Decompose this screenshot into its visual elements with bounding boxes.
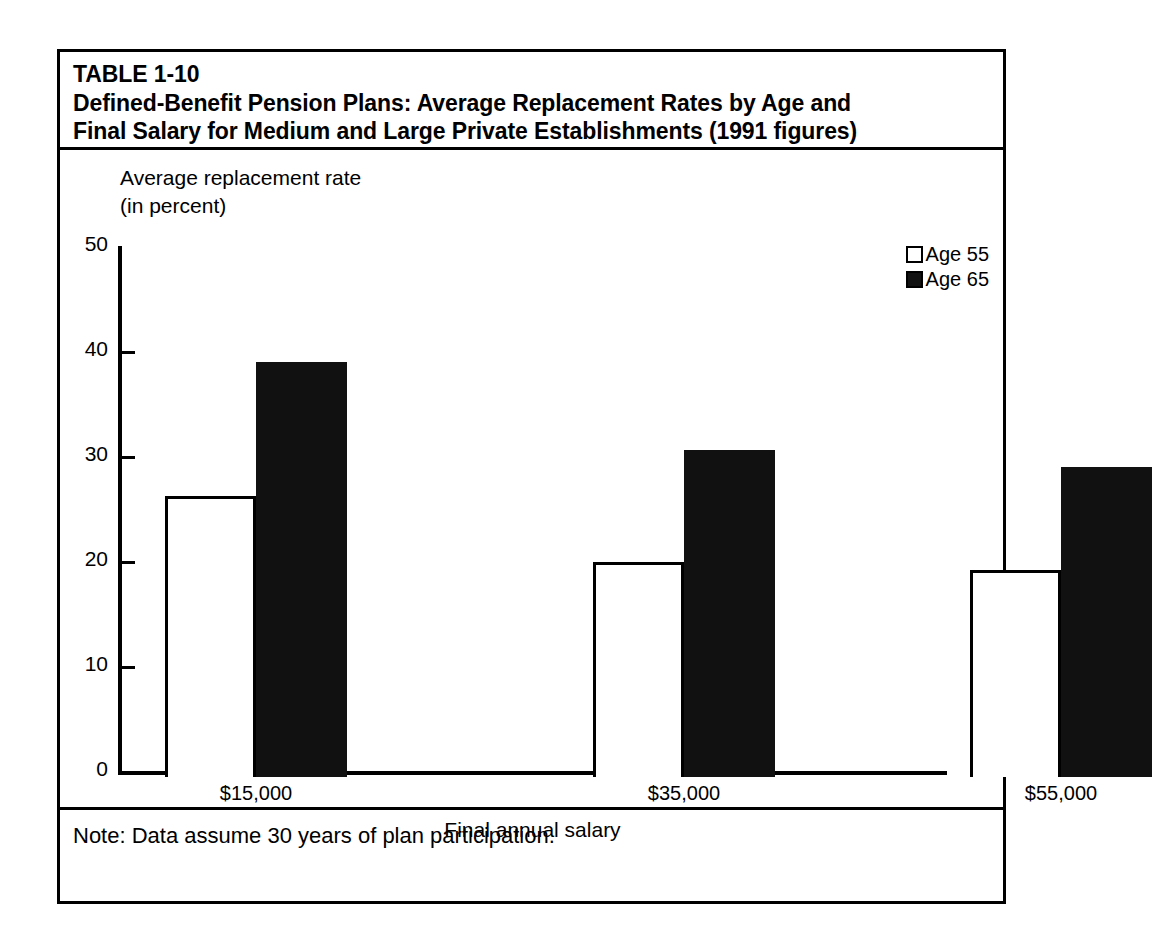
plot-canvas: 50403020100 $15,000$35,000$55,000 Final … — [118, 246, 998, 781]
y-tick-mark — [122, 666, 135, 669]
y-axis-line — [118, 246, 122, 775]
y-axis-title-line-2: (in percent) — [120, 192, 361, 220]
y-axis-title: Average replacement rate (in percent) — [120, 164, 361, 220]
bar-age-65-55000 — [1061, 467, 1152, 777]
y-tick-label: 0 — [96, 758, 108, 780]
x-category-label-15000: $15,000 — [135, 782, 377, 805]
y-tick-mark — [122, 456, 135, 459]
figure-panel: TABLE 1-10 Defined-Benefit Pension Plans… — [57, 49, 1006, 904]
table-number: TABLE 1-10 — [73, 60, 993, 89]
bar-age-55-35000 — [593, 562, 684, 777]
bar-age-55-55000 — [970, 570, 1061, 777]
y-axis-title-line-1: Average replacement rate — [120, 164, 361, 192]
y-tick-label: 50 — [85, 233, 108, 255]
bar-age-65-35000 — [684, 450, 775, 777]
table-title-line-2: Final Salary for Medium and Large Privat… — [73, 117, 993, 146]
table-note: Note: Data assume 30 years of plan parti… — [60, 807, 1003, 901]
chart-area: Average replacement rate (in percent) Ag… — [60, 150, 1003, 807]
y-tick-mark — [122, 351, 135, 354]
y-tick-label: 40 — [85, 338, 108, 360]
bar-age-65-15000 — [256, 362, 347, 777]
y-tick-mark — [122, 561, 135, 564]
table-title-block: TABLE 1-10 Defined-Benefit Pension Plans… — [60, 52, 1003, 150]
bar-age-55-15000 — [165, 496, 256, 777]
y-tick-label: 10 — [85, 653, 108, 675]
table-title-line-1: Defined-Benefit Pension Plans: Average R… — [73, 89, 993, 118]
y-tick-label: 30 — [85, 443, 108, 465]
x-category-label-35000: $35,000 — [563, 782, 805, 805]
x-category-label-55000: $55,000 — [940, 782, 1156, 805]
y-tick-label: 20 — [85, 548, 108, 570]
